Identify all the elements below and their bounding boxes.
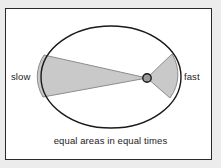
label-slow: slow	[11, 71, 30, 82]
slow-sector-shaded-area	[37, 55, 147, 97]
label-fast: fast	[184, 71, 200, 82]
figure-caption: equal areas in equal times	[0, 135, 221, 146]
focus-body-icon	[143, 74, 151, 82]
figure-root: slow fast equal areas in equal times	[0, 0, 221, 168]
fast-sector-shaded-area	[147, 54, 178, 98]
